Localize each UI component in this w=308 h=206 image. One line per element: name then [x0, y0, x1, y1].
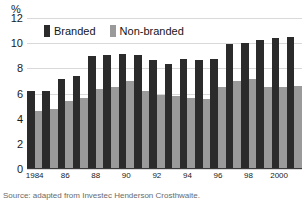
- bar-branded[interactable]: [226, 44, 234, 168]
- bar-nonbranded[interactable]: [279, 87, 287, 168]
- x-axis-tick-label: 90: [122, 171, 131, 180]
- bar-nonbranded[interactable]: [126, 81, 134, 168]
- bar-branded[interactable]: [241, 43, 249, 168]
- bar-nonbranded[interactable]: [264, 87, 272, 168]
- bar-nonbranded[interactable]: [96, 89, 104, 168]
- legend-label-branded: Branded: [54, 25, 96, 37]
- y-axis-tick-label: 2: [1, 138, 23, 149]
- x-axis-tick-label: 88: [91, 171, 100, 180]
- bar-group: [226, 18, 241, 168]
- x-axis-tick-label: 1984: [26, 171, 44, 180]
- bar-nonbranded[interactable]: [172, 96, 180, 168]
- x-axis-tick-label: 94: [183, 171, 192, 180]
- x-axis-tick-label: 98: [244, 171, 253, 180]
- bar-nonbranded[interactable]: [142, 91, 150, 168]
- bar-group: [241, 18, 256, 168]
- y-axis-tick-label: 8: [1, 63, 23, 74]
- bar-nonbranded[interactable]: [35, 111, 43, 168]
- y-axis-tick-label: 0: [1, 164, 23, 175]
- y-axis-tick-label: 10: [1, 38, 23, 49]
- bar-series-container: [27, 18, 302, 168]
- bar-nonbranded[interactable]: [157, 95, 165, 168]
- bar-nonbranded[interactable]: [80, 98, 88, 168]
- y-axis-tick-label: 6: [1, 88, 23, 99]
- bar-group: [210, 18, 225, 168]
- bar-group: [73, 18, 88, 168]
- legend-label-nonbranded: Non-branded: [120, 25, 184, 37]
- bar-nonbranded[interactable]: [294, 86, 302, 168]
- y-axis-tick-label: 4: [1, 113, 23, 124]
- bar-branded[interactable]: [88, 56, 96, 168]
- bar-group: [287, 18, 302, 168]
- bar-branded[interactable]: [165, 64, 173, 168]
- x-axis-tick-label: 2000: [270, 171, 288, 180]
- bar-group: [88, 18, 103, 168]
- bar-nonbranded[interactable]: [203, 99, 211, 168]
- x-axis-tick-label: 92: [152, 171, 161, 180]
- bar-branded[interactable]: [195, 60, 203, 168]
- bar-group: [134, 18, 149, 168]
- bar-group: [149, 18, 164, 168]
- bar-group: [58, 18, 73, 168]
- bar-nonbranded[interactable]: [65, 101, 73, 168]
- bar-group: [27, 18, 42, 168]
- bar-branded[interactable]: [134, 55, 142, 168]
- legend-item-nonbranded[interactable]: Non-branded: [110, 25, 184, 37]
- bar-branded[interactable]: [256, 40, 264, 168]
- plot-area: [27, 18, 302, 169]
- bar-group: [256, 18, 271, 168]
- bar-nonbranded[interactable]: [187, 98, 195, 168]
- bar-branded[interactable]: [180, 59, 188, 168]
- bar-nonbranded[interactable]: [218, 87, 226, 168]
- bar-branded[interactable]: [287, 37, 295, 168]
- chart-figure: % 024681012 1984868890929496982000 Brand…: [0, 0, 308, 206]
- chart-legend: Branded Non-branded: [44, 25, 184, 37]
- bar-branded[interactable]: [149, 60, 157, 168]
- x-axis-line: [27, 168, 302, 169]
- bar-group: [272, 18, 287, 168]
- x-axis-tick-label: 96: [214, 171, 223, 180]
- bar-branded[interactable]: [27, 91, 35, 168]
- bar-branded[interactable]: [119, 54, 127, 168]
- bar-group: [195, 18, 210, 168]
- bar-branded[interactable]: [73, 76, 81, 168]
- gridline: [27, 169, 302, 170]
- bar-branded[interactable]: [272, 38, 280, 168]
- bar-group: [103, 18, 118, 168]
- bar-group: [180, 18, 195, 168]
- bar-branded[interactable]: [58, 79, 66, 168]
- x-axis-ticks: 1984868890929496982000: [27, 171, 302, 183]
- bar-group: [119, 18, 134, 168]
- legend-swatch-branded-icon: [44, 25, 50, 37]
- source-note: Source: adapted from Investec Henderson …: [3, 191, 200, 200]
- bar-nonbranded[interactable]: [111, 87, 119, 168]
- y-axis-tick-label: 12: [1, 13, 23, 24]
- bar-nonbranded[interactable]: [233, 81, 241, 168]
- bar-group: [42, 18, 57, 168]
- bar-branded[interactable]: [210, 59, 218, 168]
- bar-branded[interactable]: [42, 91, 50, 168]
- bar-branded[interactable]: [103, 55, 111, 168]
- x-axis-tick-label: 86: [61, 171, 70, 180]
- bar-group: [165, 18, 180, 168]
- bar-nonbranded[interactable]: [249, 79, 257, 168]
- bar-nonbranded[interactable]: [50, 109, 58, 168]
- legend-item-branded[interactable]: Branded: [44, 25, 96, 37]
- legend-swatch-nonbranded-icon: [110, 25, 116, 37]
